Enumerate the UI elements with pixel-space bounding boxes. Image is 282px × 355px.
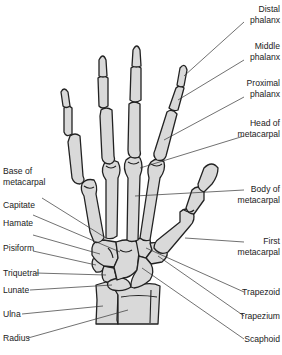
fourth-metacarpal (102, 160, 120, 238)
label-line: metacarpal (237, 247, 280, 258)
label-distal-phalanx: Distal phalanx (250, 4, 280, 25)
label-line: phalanx (250, 52, 280, 63)
fifth-distal-phalanx (61, 89, 70, 108)
label-line: Ulna (3, 309, 21, 320)
label-line: Distal (250, 4, 280, 15)
label-line: Middle (250, 41, 280, 52)
label-line: Proximal (247, 78, 280, 89)
label-line: metacarpal (237, 129, 280, 140)
label-proximal-phalanx: Proximal phalanx (247, 78, 280, 99)
label-middle-phalanx: Middle phalanx (250, 41, 280, 62)
label-capitate: Capitate (3, 200, 35, 211)
first-metacarpal (154, 209, 194, 253)
second-proximal-phalanx (154, 110, 177, 160)
second-distal-phalanx (177, 65, 187, 86)
label-line: Head of (237, 118, 280, 129)
label-line: Hamate (3, 218, 33, 229)
third-middle-phalanx (130, 66, 141, 102)
label-line: phalanx (247, 89, 280, 100)
label-line: Trapezoid (242, 287, 280, 298)
label-pisiform: Pisiform (3, 243, 34, 254)
label-radius: Radius (3, 333, 30, 344)
second-middle-phalanx (169, 86, 184, 111)
label-line: Pisiform (3, 243, 34, 254)
label-line: metacarpal (3, 177, 46, 188)
third-distal-phalanx (132, 46, 141, 67)
label-base-of-metacarpal: Base of metacarpal (3, 166, 46, 187)
label-lunate: Lunate (3, 285, 29, 296)
hand-bones-diagram: Distal phalanx Middle phalanx Proximal p… (0, 0, 282, 355)
third-metacarpal (124, 156, 142, 241)
label-scaphoid: Scaphoid (244, 334, 280, 345)
label-line: Triquetral (3, 268, 39, 279)
label-line: phalanx (250, 15, 280, 26)
label-trapezium: Trapezium (240, 311, 280, 322)
fourth-proximal-phalanx (100, 108, 115, 164)
label-hamate: Hamate (3, 218, 33, 229)
label-line: metacarpal (237, 195, 280, 206)
label-ulna: Ulna (3, 309, 21, 320)
label-trapezoid: Trapezoid (242, 287, 280, 298)
fourth-middle-phalanx (98, 76, 108, 108)
third-proximal-phalanx (128, 102, 140, 158)
label-first-metacarpal: First metacarpal (237, 236, 280, 257)
label-head-of-metacarpal: Head of metacarpal (237, 118, 280, 139)
fifth-proximal-phalanx (68, 134, 84, 184)
label-triquetral: Triquetral (3, 268, 39, 279)
fifth-metacarpal (81, 180, 104, 243)
label-line: Trapezium (240, 311, 280, 322)
second-metacarpal (140, 159, 165, 241)
label-line: Radius (3, 333, 30, 344)
thumb-distal-phalanx (198, 164, 218, 192)
label-body-of-metacarpal: Body of metacarpal (237, 184, 280, 205)
label-line: Lunate (3, 285, 29, 296)
fourth-distal-phalanx (99, 56, 107, 77)
fifth-middle-phalanx (64, 106, 72, 136)
label-line: Body of (237, 184, 280, 195)
label-line: Scaphoid (244, 334, 280, 345)
label-line: Capitate (3, 200, 35, 211)
label-line: Base of (3, 166, 46, 177)
label-line: First (237, 236, 280, 247)
